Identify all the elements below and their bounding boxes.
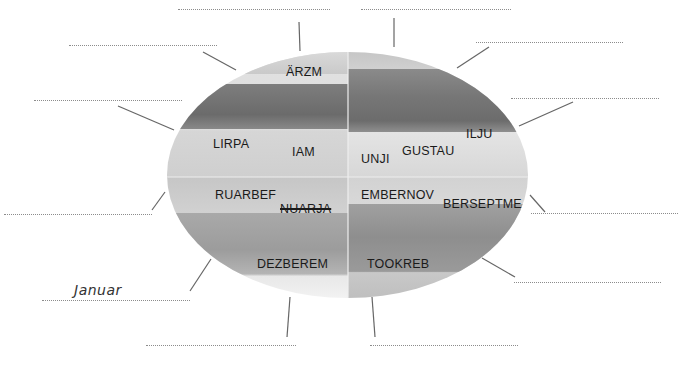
scrambled-word-februar: RUARBEF [215, 188, 276, 202]
scrambled-word-november: EMBERNOV [361, 188, 434, 202]
answer-blank-juni[interactable] [361, 9, 511, 10]
scrambled-word-oktober: TOOKREB [367, 257, 429, 271]
scrambled-word-januar-crossed: NUARJA [280, 202, 331, 216]
answer-blank-september[interactable] [531, 213, 678, 214]
answer-blank-april[interactable] [69, 45, 217, 46]
scrambled-word-august: GUSTAU [402, 144, 454, 158]
answer-blank-oktober[interactable] [370, 345, 518, 346]
answer-blank-juli[interactable] [476, 42, 623, 43]
scrambled-word-mai: IAM [292, 145, 315, 159]
answer-blank-november[interactable] [514, 282, 661, 283]
months-worksheet: ÄRZM LIRPA IAM UNJI GUSTAU ILJU RUARBEF … [0, 0, 679, 369]
scrambled-word-juni: UNJI [361, 152, 390, 166]
seasons-ellipse [167, 52, 528, 298]
answer-blank-januar[interactable] [42, 300, 190, 301]
answer-blank-februar[interactable] [4, 214, 152, 215]
scrambled-word-september: BERSEPTME [443, 197, 522, 211]
scrambled-word-juli: ILJU [466, 127, 493, 141]
scrambled-word-maerz: ÄRZM [286, 65, 322, 79]
quadrant-divider-vertical [347, 52, 349, 298]
handwritten-answer-januar: Januar [74, 282, 122, 298]
scrambled-word-dezember: DEZBEREM [257, 257, 328, 271]
scrambled-word-april: LIRPA [213, 137, 249, 151]
answer-blank-mai[interactable] [34, 100, 182, 101]
answer-blank-august[interactable] [511, 98, 659, 99]
answer-blank-maerz[interactable] [178, 9, 330, 10]
answer-blank-dezember[interactable] [146, 345, 296, 346]
quadrant-divider-horizontal [167, 176, 528, 178]
